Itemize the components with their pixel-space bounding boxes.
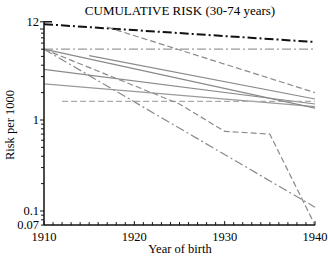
line-series-9 [44, 49, 315, 225]
y-tick-label: 0.1 [23, 204, 39, 218]
x-tick-label: 1930 [212, 230, 237, 244]
x-tick-label: 1910 [32, 230, 57, 244]
chart: CUMULATIVE RISK (30-74 years) 1210.10.07… [0, 0, 328, 259]
x-tick-label: 1940 [303, 230, 328, 244]
line-series-8 [44, 49, 315, 108]
x-tick-label: 1920 [122, 230, 147, 244]
x-axis-label: Year of birth [148, 242, 212, 256]
chart-title: CUMULATIVE RISK (30-74 years) [85, 3, 275, 18]
line-series-3 [107, 27, 315, 93]
line-series-1 [44, 24, 315, 42]
y-tick-label: 1 [33, 113, 39, 127]
y-tick-label: 12 [27, 15, 40, 29]
line-series-4 [89, 56, 315, 99]
y-axis-label: Risk per 1000 [3, 90, 17, 160]
plot-area [44, 24, 315, 225]
